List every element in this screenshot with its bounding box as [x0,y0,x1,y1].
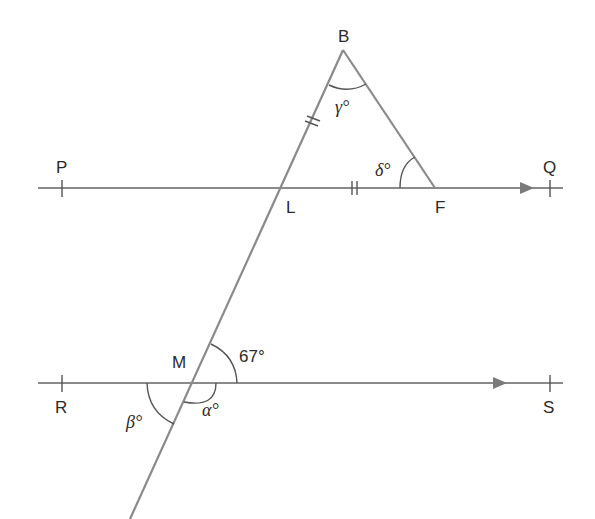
parallel-arrow-rs-icon [493,377,507,389]
label-l: L [286,198,295,217]
angle-label-gamma: γ° [335,97,349,117]
label-f: F [435,198,445,217]
angle-label-beta: β° [125,412,142,432]
angle-arc-67 [211,344,237,383]
angle-label-alpha: α° [202,400,219,420]
transversal-line [130,50,343,519]
angle-arc-gamma [329,84,366,89]
angle-label-67: 67° [239,347,265,366]
label-s: S [543,398,554,417]
angle-arc-beta [147,383,174,424]
label-m: M [172,353,186,372]
label-b: B [338,27,349,46]
label-q: Q [543,158,556,177]
label-p: P [56,158,67,177]
geometry-diagram: B P Q L F M R S γ° δ° 67° α° β° [0,0,595,519]
parallel-arrow-pq-icon [520,182,534,194]
label-r: R [55,398,67,417]
angle-label-delta: δ° [375,160,391,180]
angle-arc-delta [400,157,415,188]
